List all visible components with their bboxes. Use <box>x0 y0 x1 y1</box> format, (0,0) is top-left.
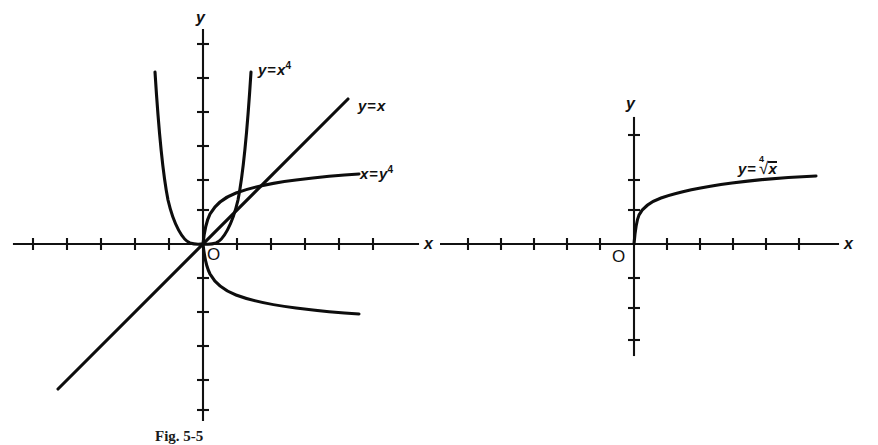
left-y-axis-label: y <box>196 10 205 26</box>
label-quartic-exponent: 4 <box>285 60 291 71</box>
curve-x-equals-y-fourth-lower <box>203 244 359 314</box>
figure-caption: Fig. 5-5 <box>155 428 203 445</box>
left-plot-svg <box>0 0 440 438</box>
left-origin-label: O <box>207 246 220 263</box>
label-quartic-op: = <box>266 61 277 78</box>
radical-vinculum <box>768 161 777 163</box>
label-y-equals-fourth-root-x: y= 4√x <box>738 160 777 177</box>
radical-group: 4√x <box>757 160 777 177</box>
chart-panel-right: y x O y= 4√x <box>440 0 878 438</box>
label-identity-rhs: x <box>377 97 385 114</box>
curve-y-equals-fourth-root-x <box>634 176 816 244</box>
label-y-equals-x-fourth: y=x4 <box>258 62 291 77</box>
radical-index: 4 <box>759 155 764 164</box>
chart-panel-left: y x O y=x4 y=x x=y4 <box>0 0 440 438</box>
right-y-axis-label: y <box>626 96 635 112</box>
label-x-equals-y-fourth: x=y4 <box>360 166 393 181</box>
label-root-op: = <box>746 160 757 177</box>
label-identity-op: = <box>366 97 377 114</box>
label-inverse-exponent: 4 <box>387 164 393 175</box>
right-plot-svg <box>440 0 878 438</box>
left-x-axis-label: x <box>424 236 433 252</box>
label-inverse-op: = <box>368 165 379 182</box>
right-x-axis-label: x <box>844 236 853 252</box>
label-y-equals-x: y=x <box>358 98 385 113</box>
right-origin-label: O <box>612 248 625 265</box>
